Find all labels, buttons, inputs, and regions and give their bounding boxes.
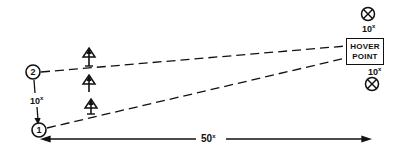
dashed-path-lower: [47, 58, 346, 128]
hover-point-diagram: [0, 0, 406, 151]
right-arrowhead: [362, 137, 370, 142]
node-1-label: 1: [32, 123, 46, 137]
x-circle-icon-top: [362, 8, 375, 21]
top-marker-distance: 10x: [362, 23, 375, 34]
hover-point-line1: HOVER: [350, 42, 379, 52]
x-circle-icon-bottom: [366, 78, 379, 91]
vertical-distance-label: 10x: [30, 95, 43, 106]
left-arrowhead: [42, 137, 50, 142]
horizontal-distance-label: 50x: [201, 133, 215, 144]
hover-point-box: HOVER POINT: [346, 38, 384, 65]
vertical-dimension-line-top: [34, 80, 35, 93]
bottom-marker-distance: 10x: [368, 66, 381, 77]
hover-point-line2: POINT: [352, 52, 377, 62]
arrow-triangle-icon-2: [83, 75, 95, 92]
node-2-label: 2: [26, 65, 40, 79]
arrow-triangle-icon-1: [83, 48, 95, 66]
arrow-triangle-icon-3: [85, 99, 97, 114]
